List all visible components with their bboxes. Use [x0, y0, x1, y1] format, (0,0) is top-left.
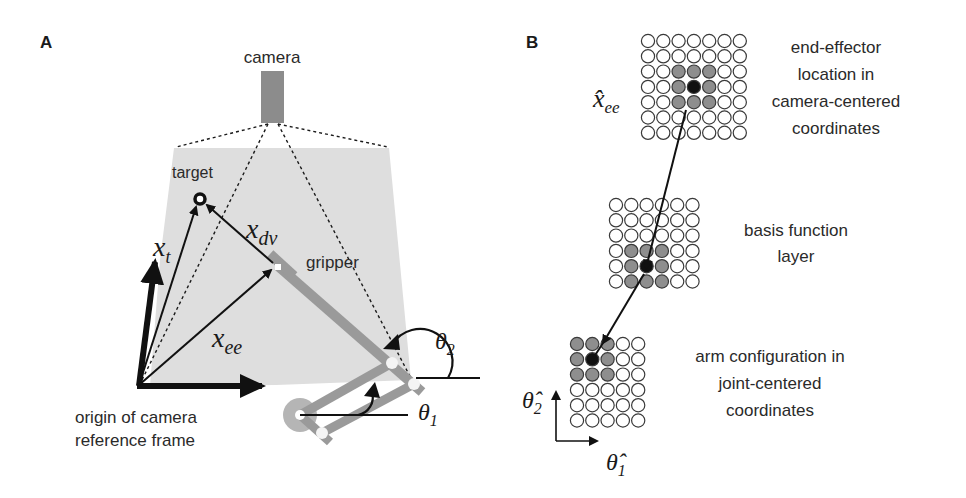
unit-inactive [570, 414, 583, 427]
unit-active [655, 260, 668, 273]
unit-inactive [641, 111, 654, 124]
unit-inactive [671, 229, 684, 242]
unit-inactive [686, 244, 699, 257]
bottom-layer-desc-3: coordinates [726, 401, 814, 420]
unit-inactive [703, 111, 716, 124]
unit-inactive [641, 65, 654, 78]
unit-inactive [601, 383, 614, 396]
top-layer-desc-4: coordinates [792, 119, 880, 138]
panel-a-label: A [40, 33, 52, 52]
unit-inactive [686, 229, 699, 242]
unit-inactive [586, 383, 599, 396]
unit-inactive [687, 126, 700, 139]
unit-active [601, 353, 614, 366]
unit-inactive [641, 50, 654, 63]
unit-inactive [641, 34, 654, 47]
unit-inactive [657, 50, 670, 63]
x-ee-hat-label: x̂ee [592, 84, 620, 117]
unit-inactive [632, 337, 645, 350]
unit-inactive [703, 34, 716, 47]
unit-inactive [625, 198, 638, 211]
unit-inactive [718, 126, 731, 139]
theta1-label: θ1 [418, 399, 438, 429]
unit-inactive [733, 65, 746, 78]
unit-inactive [657, 80, 670, 93]
unit-inactive [686, 198, 699, 211]
unit-inactive [672, 34, 685, 47]
unit-inactive [616, 383, 629, 396]
unit-inactive [625, 229, 638, 242]
unit-active [570, 368, 583, 381]
unit-inactive [616, 353, 629, 366]
theta2-hat-label: θ̂2 [522, 387, 543, 417]
unit-inactive [718, 65, 731, 78]
unit-inactive [616, 414, 629, 427]
unit-inactive [601, 414, 614, 427]
theta1-hat-label: θ̂1 [606, 449, 627, 479]
theta2-label: θ2 [435, 328, 455, 358]
unit-active [703, 96, 716, 109]
unit-active [672, 96, 685, 109]
unit-inactive [609, 260, 622, 273]
unit-inactive [641, 96, 654, 109]
unit-inactive [686, 275, 699, 288]
origin-label-line1: origin of camera [75, 408, 197, 427]
arrow-middle-to-bottom [603, 274, 644, 343]
unit-inactive [657, 34, 670, 47]
top-layer-desc-2: location in [798, 65, 875, 84]
unit-inactive [586, 399, 599, 412]
unit-inactive [718, 50, 731, 63]
camera-icon [261, 71, 284, 123]
unit-active [672, 65, 685, 78]
target-icon [195, 194, 205, 204]
gripper-label: gripper [306, 253, 359, 272]
unit-inactive [570, 399, 583, 412]
unit-inactive [625, 214, 638, 227]
top-layer-desc-3: camera-centered [772, 92, 901, 111]
unit-inactive [609, 214, 622, 227]
unit-inactive [609, 244, 622, 257]
unit-inactive [616, 368, 629, 381]
unit-inactive [733, 34, 746, 47]
unit-active [601, 368, 614, 381]
unit-inactive [733, 96, 746, 109]
unit-active [570, 353, 583, 366]
unit-inactive [616, 399, 629, 412]
origin-label-line2: reference frame [75, 431, 195, 450]
bottom-layer-desc-2: joint-centered [717, 374, 821, 393]
panel-b-label: B [526, 33, 538, 52]
unit-inactive [672, 50, 685, 63]
unit-inactive [655, 229, 668, 242]
unit-active [655, 244, 668, 257]
unit-inactive [586, 414, 599, 427]
unit-inactive [703, 126, 716, 139]
unit-inactive [671, 260, 684, 273]
unit-inactive [703, 50, 716, 63]
unit-inactive [718, 96, 731, 109]
unit-inactive [640, 229, 653, 242]
grid-end-effector-layer [641, 34, 746, 139]
unit-inactive [718, 80, 731, 93]
unit-inactive [632, 399, 645, 412]
unit-inactive [687, 111, 700, 124]
unit-active [672, 80, 685, 93]
unit-inactive [632, 353, 645, 366]
unit-inactive [570, 383, 583, 396]
unit-inactive [733, 111, 746, 124]
unit-inactive [671, 198, 684, 211]
unit-active [687, 65, 700, 78]
grid-basis-function-layer [609, 198, 699, 288]
unit-inactive [657, 65, 670, 78]
unit-inactive [657, 96, 670, 109]
unit-active [625, 260, 638, 273]
camera-label: camera [244, 48, 301, 67]
gripper-end [275, 264, 281, 270]
unit-inactive [609, 275, 622, 288]
figure: A camera target [0, 0, 966, 498]
unit-inactive [632, 414, 645, 427]
unit-peak [687, 80, 700, 93]
middle-layer-desc-2: layer [778, 247, 815, 266]
unit-inactive [733, 50, 746, 63]
unit-active [703, 65, 716, 78]
unit-inactive [641, 126, 654, 139]
